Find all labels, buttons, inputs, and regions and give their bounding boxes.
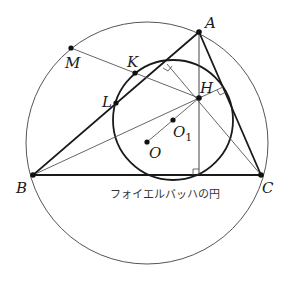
altitude-c	[167, 64, 261, 175]
label-a: A	[203, 14, 216, 32]
label-l: L	[101, 93, 112, 111]
label-k: K	[126, 53, 139, 71]
label-h: H	[199, 79, 214, 97]
nine-point-circle-diagram: A B C H O O1 K L M フォイエルバッハの円	[0, 0, 293, 285]
points	[30, 29, 264, 178]
label-o1: O1	[173, 123, 192, 144]
altitude-b	[33, 87, 223, 175]
label-m: M	[64, 54, 81, 72]
caption: フォイエルバッハの円	[110, 188, 220, 201]
geometry-figure: A B C H O O1 K L M フォイエルバッハの円	[0, 0, 293, 285]
label-c: C	[262, 179, 274, 197]
label-o: O	[149, 144, 161, 162]
label-b: B	[15, 179, 27, 197]
